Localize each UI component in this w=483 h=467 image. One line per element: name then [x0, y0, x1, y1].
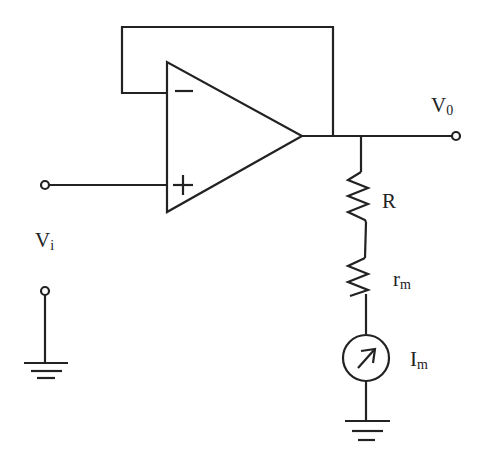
resistor-rm-icon — [348, 258, 368, 296]
r-label: R — [382, 189, 396, 213]
resistor-r-icon — [348, 172, 368, 222]
rm-label: rm — [393, 267, 411, 292]
opamp-triangle — [167, 62, 302, 212]
im-label: Im — [410, 347, 428, 372]
ground-icon — [345, 421, 390, 440]
vo-label: V0 — [431, 93, 453, 118]
circuit-diagram: Vi V0 R rm Im — [0, 0, 483, 467]
ground-icon — [24, 363, 68, 378]
vi-input-terminal[interactable] — [41, 181, 49, 189]
vi-label: Vi — [35, 228, 54, 253]
vo-output-terminal[interactable] — [452, 132, 460, 140]
vi-reference-terminal[interactable] — [41, 287, 49, 295]
feedback-wire — [122, 27, 333, 136]
